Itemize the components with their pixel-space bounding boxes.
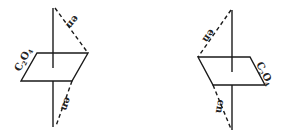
left-en-top-label: en — [64, 13, 82, 31]
right-en-top-label: en — [200, 27, 217, 45]
left-en-top-bond — [55, 8, 88, 53]
diagram-canvas: en en C2O4 en en C2O4 — [0, 0, 287, 138]
right-en-bottom-label: en — [214, 99, 227, 115]
left-oxalate-plane — [21, 53, 88, 81]
